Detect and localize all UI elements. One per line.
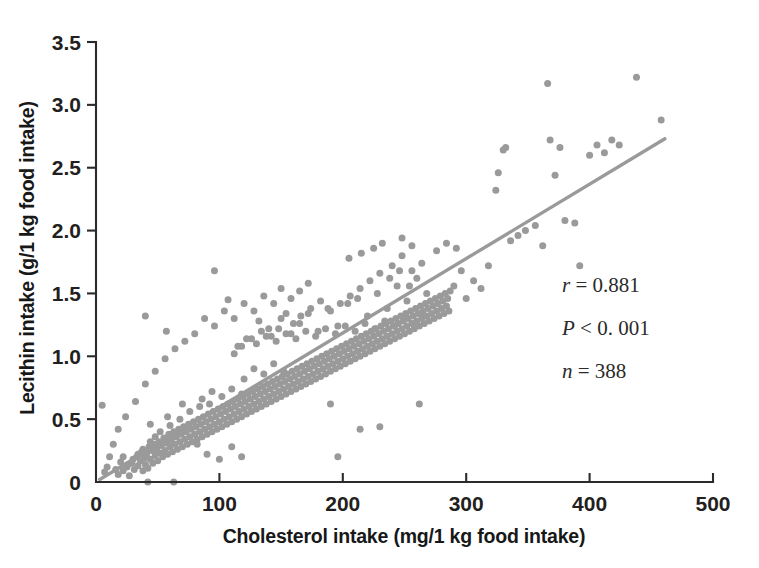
stat-symbol: n (562, 359, 573, 383)
y-tick-label: 1.5 (52, 282, 82, 305)
data-point (358, 250, 365, 257)
y-tick-label: 1.0 (52, 345, 81, 368)
data-point (381, 318, 388, 325)
data-point (162, 355, 169, 362)
stat-value: = 388 (573, 359, 627, 383)
x-tick-label: 0 (90, 492, 102, 515)
data-point (106, 453, 113, 460)
data-point (211, 267, 218, 274)
data-point (231, 350, 238, 357)
x-tick-label: 500 (695, 492, 730, 515)
data-point (221, 308, 228, 315)
data-point (337, 300, 344, 307)
data-point (492, 187, 499, 194)
data-point (302, 328, 309, 335)
data-point (406, 282, 413, 289)
stat-annotation: r = 0.881 (562, 273, 640, 297)
data-point (115, 426, 122, 433)
y-axis-title: Lecithin intake (g/1 kg food intake) (16, 101, 38, 415)
data-point (196, 403, 203, 410)
data-point (209, 388, 216, 395)
data-point (322, 325, 329, 332)
data-point (258, 328, 265, 335)
data-point (283, 310, 290, 317)
data-point (386, 275, 393, 282)
data-point (147, 438, 154, 445)
stat-symbol: P (561, 316, 575, 340)
data-point (334, 453, 341, 460)
data-point (164, 413, 171, 420)
data-point (616, 142, 623, 149)
data-point (260, 292, 267, 299)
data-point (191, 330, 198, 337)
data-point (255, 318, 262, 325)
stat-value: = 0.881 (570, 273, 640, 297)
data-point (142, 313, 149, 320)
data-point (204, 451, 211, 458)
data-point (238, 343, 245, 350)
data-point (283, 330, 290, 337)
data-point (273, 338, 280, 345)
data-point (228, 443, 235, 450)
data-point (556, 144, 563, 151)
data-point (357, 285, 364, 292)
data-point (458, 267, 465, 274)
data-point (478, 285, 485, 292)
y-tick-label: 3.0 (52, 93, 81, 116)
data-point (450, 282, 457, 289)
data-point (194, 441, 201, 448)
data-point (270, 360, 277, 367)
data-point (199, 396, 206, 403)
data-point (502, 144, 509, 151)
data-point (453, 245, 460, 252)
data-point (278, 285, 285, 292)
data-point (444, 295, 451, 302)
stat-value: < 0. 001 (575, 316, 650, 340)
y-tick-label: 3.5 (52, 31, 82, 54)
data-point (132, 398, 139, 405)
data-point (152, 368, 159, 375)
data-point (445, 308, 452, 315)
data-point (408, 267, 415, 274)
data-point (485, 262, 492, 269)
data-point (658, 116, 665, 123)
data-point (201, 315, 208, 322)
data-point (327, 308, 334, 315)
data-point (307, 305, 314, 312)
data-point (389, 262, 396, 269)
x-axis-title: Cholesterol intake (mg/1 kg food intake) (223, 525, 586, 547)
data-point (547, 137, 554, 144)
data-point (270, 300, 277, 307)
data-point (421, 313, 428, 320)
data-point (396, 267, 403, 274)
data-point (296, 287, 303, 294)
data-point (218, 393, 225, 400)
data-point (347, 292, 354, 299)
data-point (532, 222, 539, 229)
data-point (354, 295, 361, 302)
data-point (250, 365, 257, 372)
y-tick-label: 0 (69, 471, 81, 494)
data-point (317, 297, 324, 304)
data-point (147, 421, 154, 428)
data-point (241, 300, 248, 307)
x-tick-label: 400 (572, 492, 607, 515)
data-point (552, 172, 559, 179)
data-point (495, 169, 502, 176)
data-point (176, 416, 183, 423)
data-point (443, 240, 450, 247)
data-point (418, 260, 425, 267)
data-point (470, 277, 477, 284)
data-point (376, 423, 383, 430)
data-point (297, 313, 304, 320)
y-tick-label: 2.0 (52, 219, 81, 242)
data-point (633, 74, 640, 81)
data-point (278, 315, 285, 322)
data-point (334, 323, 341, 330)
scatter-plot-figure: 00.51.01.52.02.53.03.50100200300400500 r… (0, 0, 759, 568)
y-tick-label: 2.5 (52, 156, 82, 179)
data-point (433, 247, 440, 254)
chart-canvas: 00.51.01.52.02.53.03.50100200300400500 r… (0, 0, 759, 568)
data-point (305, 280, 312, 287)
data-point (561, 217, 568, 224)
